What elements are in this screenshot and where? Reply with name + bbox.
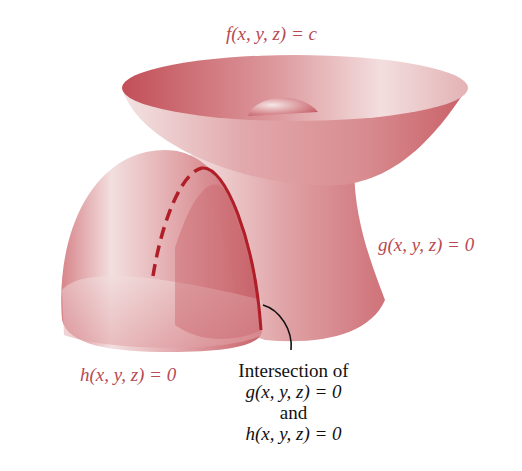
intersection-annotation: Intersection of g(x, y, z) = 0 and h(x, …	[226, 360, 361, 444]
annotation-line-3: and	[226, 402, 361, 423]
annotation-line-1: Intersection of	[226, 360, 361, 381]
annotation-line-4: h(x, y, z) = 0	[226, 423, 361, 444]
annotation-line-2: g(x, y, z) = 0	[226, 381, 361, 402]
g-surface-label: g(x, y, z) = 0	[378, 234, 474, 256]
h-surface-label: h(x, y, z) = 0	[80, 364, 176, 386]
f-surface-label: f(x, y, z) = c	[226, 23, 317, 45]
